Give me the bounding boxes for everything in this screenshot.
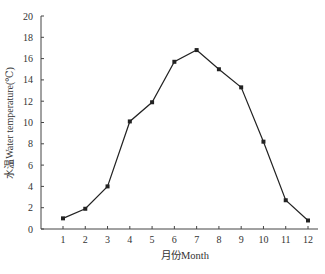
y-tick-label: 20	[23, 11, 33, 22]
y-tick-label: 14	[23, 74, 33, 85]
data-point-marker	[195, 48, 199, 52]
y-tick-label: 12	[23, 96, 33, 107]
x-tick-label: 6	[172, 234, 177, 245]
data-point-marker	[128, 119, 132, 123]
x-tick-label: 3	[105, 234, 110, 245]
data-point-marker	[83, 207, 87, 211]
x-tick-label: 2	[83, 234, 88, 245]
x-axis-label: 月份Month	[161, 250, 210, 261]
data-point-marker	[284, 198, 288, 202]
water-temperature-chart: 02468101214161820 123456789101112 月份Mont…	[0, 0, 325, 274]
y-tick-label: 4	[28, 181, 33, 192]
data-point-marker	[217, 67, 221, 71]
data-point-marker	[172, 60, 176, 64]
x-tick-label: 12	[303, 234, 313, 245]
y-tick-label: 16	[23, 53, 33, 64]
data-point-marker	[306, 218, 310, 222]
y-tick-label: 0	[28, 224, 33, 235]
x-tick-label: 5	[150, 234, 155, 245]
x-tick-label: 4	[127, 234, 132, 245]
y-tick-label: 8	[28, 138, 33, 149]
axes	[41, 16, 318, 229]
x-tick-label: 9	[239, 234, 244, 245]
data-point-marker	[106, 184, 110, 188]
data-point-marker	[61, 216, 65, 220]
x-tick-label: 7	[194, 234, 199, 245]
y-axis-label: 水温Water temperature(℃)	[4, 67, 16, 179]
x-tick-label: 11	[281, 234, 291, 245]
data-point-marker	[150, 100, 154, 104]
y-tick-label: 2	[28, 202, 33, 213]
y-tick-label: 6	[28, 160, 33, 171]
series-line	[63, 50, 308, 220]
x-tick-label: 10	[258, 234, 268, 245]
y-tick-label: 18	[23, 32, 33, 43]
data-series	[61, 48, 310, 222]
x-tick-label: 8	[216, 234, 221, 245]
data-point-marker	[261, 140, 265, 144]
x-tick-label: 1	[61, 234, 66, 245]
data-point-marker	[239, 85, 243, 89]
y-tick-label: 10	[23, 117, 33, 128]
